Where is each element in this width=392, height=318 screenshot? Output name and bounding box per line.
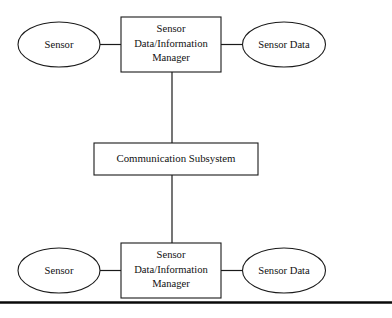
bottom-manager-label-line3: Manager	[152, 278, 190, 289]
node-bottom-sensor-data[interactable]: Sensor Data	[243, 248, 326, 293]
node-bottom-sensor[interactable]: Sensor	[18, 248, 100, 293]
top-sensor-label: Sensor	[45, 39, 74, 50]
diagram-canvas: Sensor Sensor Data/Information Manager S…	[0, 0, 392, 318]
communication-subsystem-label: Communication Subsystem	[116, 152, 236, 164]
top-manager-label-line2: Data/Information	[134, 38, 208, 49]
node-top-sensor[interactable]: Sensor	[18, 22, 100, 67]
bottom-manager-label-line2: Data/Information	[134, 264, 208, 275]
diagram-root: Sensor Sensor Data/Information Manager S…	[0, 0, 392, 318]
top-sensor-data-label: Sensor Data	[258, 39, 310, 50]
node-top-sensor-data[interactable]: Sensor Data	[243, 22, 326, 67]
node-bottom-manager[interactable]: Sensor Data/Information Manager	[121, 243, 221, 298]
node-top-manager[interactable]: Sensor Data/Information Manager	[121, 17, 221, 72]
node-communication-subsystem[interactable]: Communication Subsystem	[94, 143, 258, 175]
bottom-sensor-label: Sensor	[45, 265, 74, 276]
bottom-sensor-data-label: Sensor Data	[258, 265, 310, 276]
bottom-manager-label-line1: Sensor	[157, 249, 186, 260]
top-manager-label-line3: Manager	[152, 52, 190, 63]
top-manager-label-line1: Sensor	[157, 23, 186, 34]
